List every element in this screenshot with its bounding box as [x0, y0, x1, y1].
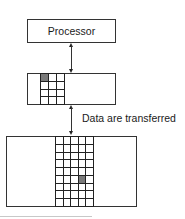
grid-cell: [71, 191, 79, 199]
grid-cell: [41, 82, 49, 90]
grid-cell: [56, 191, 64, 199]
grid-cell: [71, 145, 79, 153]
grid-cell: [56, 145, 64, 153]
grid-cell: [79, 168, 87, 176]
divider: [0, 216, 92, 217]
grid-cell: [64, 191, 72, 199]
grid-cell: [79, 137, 87, 145]
grid-cell: [86, 176, 94, 184]
grid-cell: [41, 90, 49, 98]
cache-box: [27, 73, 116, 105]
grid-cell: [79, 199, 87, 207]
grid-cell: [86, 184, 94, 192]
grid-cell: [64, 176, 72, 184]
grid-cell: [56, 160, 64, 168]
grid-cell: [41, 97, 49, 105]
grid-cell: [71, 199, 79, 207]
grid-cell: [71, 176, 79, 184]
grid-cell: [86, 137, 94, 145]
processor-box: Processor: [27, 19, 116, 43]
grid-cell: [86, 145, 94, 153]
grid-cell: [79, 145, 87, 153]
memory-box: [6, 136, 137, 207]
cache-grid: [40, 73, 65, 105]
grid-cell: [86, 153, 94, 161]
highlighted-cell: [79, 176, 87, 184]
grid-cell: [64, 153, 72, 161]
grid-cell: [57, 74, 65, 82]
grid-cell: [49, 82, 57, 90]
grid-cell: [64, 137, 72, 145]
grid-cell: [79, 153, 87, 161]
grid-cell: [86, 191, 94, 199]
transfer-label: Data are transferred: [82, 112, 176, 124]
grid-cell: [56, 137, 64, 145]
grid-cell: [57, 90, 65, 98]
grid-cell: [56, 199, 64, 207]
grid-cell: [86, 199, 94, 207]
grid-cell: [71, 160, 79, 168]
grid-cell: [79, 184, 87, 192]
grid-cell: [49, 97, 57, 105]
grid-cell: [71, 168, 79, 176]
grid-cell: [49, 74, 57, 82]
grid-cell: [57, 82, 65, 90]
grid-cell: [64, 160, 72, 168]
grid-cell: [64, 184, 72, 192]
grid-cell: [57, 97, 65, 105]
grid-cell: [71, 184, 79, 192]
grid-cell: [64, 199, 72, 207]
memory-grid: [55, 136, 94, 207]
grid-cell: [49, 90, 57, 98]
grid-cell: [79, 160, 87, 168]
grid-cell: [56, 168, 64, 176]
grid-cell: [71, 137, 79, 145]
grid-cell: [64, 145, 72, 153]
grid-cell: [86, 168, 94, 176]
grid-cell: [71, 153, 79, 161]
grid-cell: [56, 184, 64, 192]
grid-cell: [56, 153, 64, 161]
grid-cell: [79, 191, 87, 199]
grid-cell: [86, 160, 94, 168]
grid-cell: [56, 176, 64, 184]
processor-label: Processor: [28, 25, 115, 37]
highlighted-cell: [41, 74, 49, 82]
grid-cell: [64, 168, 72, 176]
